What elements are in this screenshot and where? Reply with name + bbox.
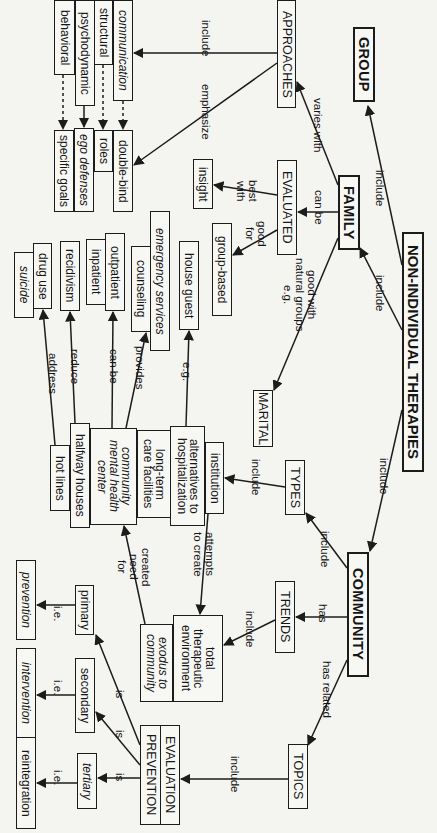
label-is-tertiary: is [114, 773, 126, 781]
label-ie-intervention: i.e. [52, 680, 64, 695]
node-structural: structural [94, 0, 113, 65]
node-evaluation: EVALUATION [160, 725, 180, 825]
label-include-family: include [374, 275, 386, 311]
node-alternatives-to-hospitalization: alternatives to hospitalization [170, 426, 205, 526]
label-can-be: can be [313, 190, 325, 225]
node-emergency-services: emergency services [150, 211, 170, 351]
label-topics-include: include [229, 756, 241, 792]
label-include-community: include [378, 458, 390, 494]
node-communication: communication [113, 0, 133, 101]
node-insight: insight [193, 159, 213, 209]
node-types: TYPES [285, 460, 305, 515]
node-behavioral: behavioral [54, 0, 75, 75]
node-trends: TRENDS [275, 581, 295, 653]
node-specific-goals: specific goals [54, 130, 74, 212]
node-halfway-houses: halfway houses [70, 423, 90, 528]
node-non-individual-therapies: NON-INDIVIDUAL THERAPIES [402, 232, 424, 472]
node-tertiary: tertiary [77, 753, 97, 809]
label-approaches-include: include [200, 20, 212, 56]
node-marital: MARITAL [253, 390, 273, 447]
node-total-therapeutic-environment: total therapeutic environment [173, 615, 223, 702]
node-prevention: prevention [16, 560, 36, 640]
node-psychodynamic: psychodynamic [75, 0, 95, 106]
label-include-group: include [374, 170, 386, 206]
concept-map: NON-INDIVIDUAL THERAPIES GROUP FAMILY CO… [0, 0, 437, 833]
connector-lines [0, 0, 437, 833]
node-community-mental-health-center: community mental health center [90, 428, 137, 525]
label-attempts-to-create: attempts to create [192, 532, 216, 577]
node-family: FAMILY [338, 175, 360, 250]
node-ego-defenses: ego defenses [74, 128, 94, 212]
label-trends-include: include [244, 611, 256, 647]
label-ie-reintegration: i.e. [52, 770, 64, 785]
label-best-with: best with [235, 180, 259, 202]
node-inpatient: inpatient [86, 239, 106, 305]
label-institution-include: include [250, 459, 262, 495]
node-counseling: counseling [131, 246, 151, 332]
label-address: address [47, 353, 59, 394]
label-provides: provides [134, 346, 146, 389]
label-has: has [317, 604, 329, 623]
node-evaluated: EVALUATED [277, 160, 297, 255]
node-topics: TOPICS [288, 744, 308, 809]
label-created-need-for: created need for [116, 548, 152, 586]
node-community: COMMUNITY [347, 552, 369, 677]
node-group-based: group-based [212, 223, 232, 316]
label-reduce: reduce [69, 349, 81, 384]
node-outpatient: outpatient [105, 233, 125, 311]
label-has-related: has related [321, 661, 333, 718]
node-reintegration: reintegration [16, 737, 36, 829]
label-ie-prevention: i.e. [52, 606, 64, 621]
node-double-bind: double-bind [113, 130, 133, 212]
label-is-secondary: is [114, 730, 126, 738]
node-house-guest: house guest [179, 241, 199, 330]
node-intervention: intervention [16, 648, 36, 738]
node-secondary: secondary [75, 658, 95, 733]
node-hot-lines: hot lines [50, 445, 70, 511]
node-recidivism: recidivism [60, 241, 80, 311]
node-institution: institution [205, 442, 224, 514]
node-prevention-topic: PREVENTION [140, 725, 161, 825]
label-types-include: include [319, 531, 331, 567]
label-can-be-outpatient: can be [108, 349, 120, 384]
label-good-for: good for [244, 221, 268, 247]
label-eg-house-guest: e.g. [181, 362, 193, 381]
label-is-primary: is [114, 690, 126, 698]
node-exodus-to-community: exodus to community [140, 624, 173, 702]
node-drug-use: drug use [33, 243, 52, 309]
node-long-term-care-facilities: long-term care facilities [137, 430, 171, 518]
node-group: GROUP [353, 27, 375, 102]
label-varies-with: varies with [312, 98, 324, 152]
node-primary: primary [75, 585, 94, 635]
node-approaches: APPROACHES [277, 0, 296, 108]
node-roles: roles [94, 130, 113, 172]
node-suicide: suicide [14, 252, 34, 318]
label-good-with-natural-groups: good with natural groups e.g. [282, 258, 318, 332]
label-emphasize: emphasize [200, 84, 212, 140]
